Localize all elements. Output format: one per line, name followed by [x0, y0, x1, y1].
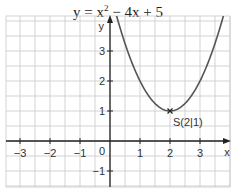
- y-axis-label: y: [99, 20, 105, 32]
- x-tick-label: 2: [167, 147, 173, 159]
- y-tick-label: 3: [99, 45, 105, 57]
- parabola-chart: y = x2 − 4x + 5 −3−2−1123−11230xy S(2|1): [0, 0, 236, 191]
- x-tick-label: −2: [44, 147, 57, 159]
- x-axis-label: x: [224, 146, 230, 158]
- y-tick-label: −1: [92, 165, 105, 177]
- x-tick-label: −3: [14, 147, 27, 159]
- y-tick-label: 2: [99, 75, 105, 87]
- x-tick-label: 3: [197, 147, 203, 159]
- y-tick-label: 1: [99, 105, 105, 117]
- vertex-label: S(2|1): [173, 116, 203, 128]
- origin-label: 0: [99, 145, 105, 157]
- tick-labels: −3−2−1123−11230xy: [14, 20, 231, 177]
- grid-lines: [6, 16, 230, 187]
- axes: [6, 15, 231, 187]
- plot-area: −3−2−1123−11230xy S(2|1): [0, 0, 236, 191]
- grid-border: [6, 16, 230, 187]
- x-tick-label: −1: [74, 147, 87, 159]
- x-tick-label: 1: [137, 147, 143, 159]
